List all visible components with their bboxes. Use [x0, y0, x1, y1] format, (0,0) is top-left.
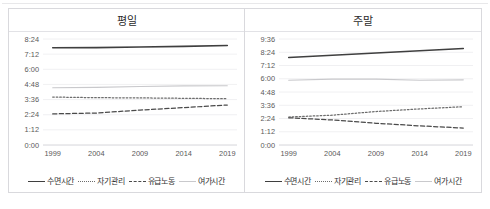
y-axis-tick-label: 2:24: [261, 114, 275, 123]
line-light-icon: [179, 177, 196, 184]
legend-label-sleep: 수면시간: [47, 175, 74, 186]
legend-item-selfcare: 자기관리: [315, 175, 361, 186]
legend-item-leisure: 여가시간: [179, 175, 225, 186]
y-axis-tick-label: 0:00: [25, 141, 39, 150]
series-line: [289, 118, 464, 128]
x-axis-tick-label: 2014: [411, 149, 427, 158]
line-chart-weekend: 0:001:122:243:364:486:007:128:249:361999…: [245, 31, 481, 169]
y-axis-tick-label: 9:36: [261, 35, 275, 44]
y-axis-tick-label: 3:36: [261, 101, 275, 110]
line-dashed-icon: [365, 177, 382, 184]
y-axis-tick-label: 6:00: [25, 65, 39, 74]
y-axis-tick-label: 8:24: [25, 35, 39, 44]
x-axis-tick-label: 2004: [324, 149, 340, 158]
y-axis-tick-label: 4:48: [261, 88, 275, 97]
x-axis-tick-label: 2014: [175, 149, 191, 158]
line-chart-weekday: 0:001:122:243:364:486:007:128:2419992004…: [9, 31, 245, 169]
legend-label-selfcare: 자기관리: [334, 175, 361, 186]
line-dashed-icon: [129, 177, 146, 184]
y-axis-tick-label: 1:12: [25, 125, 39, 134]
legend-item-paidwork: 유급노동: [365, 175, 411, 186]
y-axis-tick-label: 0:00: [261, 141, 275, 150]
panel-title-weekend: 주말: [245, 9, 481, 32]
y-axis-tick-label: 1:12: [261, 127, 275, 136]
x-axis-tick-label: 2009: [132, 149, 148, 158]
series-line: [53, 86, 228, 88]
legend-item-paidwork: 유급노동: [129, 175, 175, 186]
legend-item-sleep: 수면시간: [28, 175, 74, 186]
series-line: [53, 46, 228, 48]
legend-item-sleep: 수면시간: [265, 175, 311, 186]
x-axis-tick-label: 2004: [88, 149, 104, 158]
panel-weekend: 주말 0:001:122:243:364:486:007:128:249:361…: [245, 9, 481, 192]
y-axis-tick-label: 8:24: [261, 48, 275, 57]
x-axis-tick-label: 1999: [44, 149, 60, 158]
x-axis-tick-label: 1999: [280, 149, 296, 158]
legend-label-leisure: 여가시간: [434, 175, 461, 186]
line-solid-icon: [265, 177, 282, 184]
series-line: [53, 97, 228, 99]
legend-label-paidwork: 유급노동: [148, 175, 175, 186]
legend-label-leisure: 여가시간: [198, 175, 225, 186]
y-axis-tick-label: 6:00: [261, 74, 275, 83]
two-panel-table: 평일 0:001:122:243:364:486:007:128:2419992…: [8, 8, 482, 193]
legend-item-leisure: 여가시간: [415, 175, 461, 186]
chart-area-weekday: 0:001:122:243:364:486:007:128:2419992004…: [9, 31, 244, 192]
figure-root: 평일 0:001:122:243:364:486:007:128:2419992…: [0, 0, 490, 209]
legend-label-paidwork: 유급노동: [384, 175, 411, 186]
line-dotted-icon: [78, 177, 95, 184]
x-axis-tick-label: 2019: [219, 149, 235, 158]
panel-title-weekday: 평일: [9, 9, 244, 32]
series-line: [289, 107, 464, 117]
series-line: [53, 105, 228, 114]
y-axis-tick-label: 7:12: [261, 61, 275, 70]
legend-label-selfcare: 자기관리: [97, 175, 124, 186]
x-axis-tick-label: 2009: [368, 149, 384, 158]
legend-weekday: 수면시간 자기관리 유급노동 여가시간: [9, 175, 244, 186]
y-axis-tick-label: 4:48: [25, 80, 39, 89]
series-line: [289, 49, 464, 58]
line-dotted-icon: [315, 177, 332, 184]
line-solid-icon: [28, 177, 45, 184]
x-axis-tick-label: 2019: [455, 149, 471, 158]
line-light-icon: [415, 177, 432, 184]
y-axis-tick-label: 7:12: [25, 50, 39, 59]
panel-weekday: 평일 0:001:122:243:364:486:007:128:2419992…: [9, 9, 245, 192]
y-axis-tick-label: 3:36: [25, 95, 39, 104]
series-line: [289, 79, 464, 80]
chart-area-weekend: 0:001:122:243:364:486:007:128:249:361999…: [245, 31, 481, 192]
legend-weekend: 수면시간 자기관리 유급노동 여가시간: [245, 175, 481, 186]
legend-item-selfcare: 자기관리: [78, 175, 124, 186]
y-axis-tick-label: 2:24: [25, 110, 39, 119]
top-divider: [2, 3, 488, 4]
legend-label-sleep: 수면시간: [284, 175, 311, 186]
